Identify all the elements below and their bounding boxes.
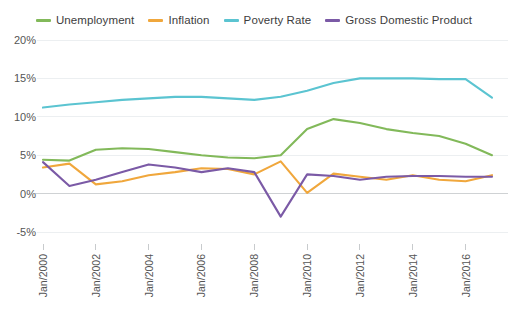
y-axis-tick-label: 0% xyxy=(20,188,36,200)
legend-swatch-icon xyxy=(36,19,51,22)
legend-item[interactable]: Unemployment xyxy=(36,14,135,26)
series-line xyxy=(43,78,492,107)
series-line xyxy=(43,161,492,192)
series-line xyxy=(43,162,492,217)
legend-item-label: Poverty Rate xyxy=(244,14,312,26)
legend-item[interactable]: Poverty Rate xyxy=(224,14,312,26)
chart-legend: UnemploymentInflationPoverty RateGross D… xyxy=(0,11,508,29)
x-axis-tick-label: Jan/2010 xyxy=(301,254,313,297)
legend-item[interactable]: Inflation xyxy=(148,14,209,26)
x-axis-tick-label: Jan/2012 xyxy=(354,254,366,297)
x-axis-tick-label: Jan/2004 xyxy=(143,254,155,297)
legend-swatch-icon xyxy=(148,19,163,22)
series-line xyxy=(43,119,492,160)
y-axis-tick-label: 15% xyxy=(14,72,36,84)
series-group xyxy=(43,78,492,216)
y-axis-tick-label: -5% xyxy=(16,226,36,238)
x-axis-tick-label: Jan/2000 xyxy=(37,254,49,297)
legend-swatch-icon xyxy=(224,19,239,22)
y-axis-tick-label: 20% xyxy=(14,34,36,46)
x-axis-tick-label: Jan/2014 xyxy=(407,254,419,297)
y-axis-tick-label: 10% xyxy=(14,111,36,123)
x-axis-tick-label: Jan/2006 xyxy=(195,254,207,297)
legend-swatch-icon xyxy=(325,19,340,22)
x-axis-tick-label: Jan/2002 xyxy=(90,254,102,297)
legend-item-label: Gross Domestic Product xyxy=(345,14,472,26)
plot-svg: -5%0%5%10%15%20%Jan/2000Jan/2002Jan/2004… xyxy=(0,30,508,312)
legend-item-label: Inflation xyxy=(168,14,209,26)
x-axis-tick-label: Jan/2008 xyxy=(248,254,260,297)
legend-item[interactable]: Gross Domestic Product xyxy=(325,14,472,26)
plot-area: -5%0%5%10%15%20%Jan/2000Jan/2002Jan/2004… xyxy=(0,30,508,312)
y-axis-tick-label: 5% xyxy=(20,149,36,161)
x-axis-labels: Jan/2000Jan/2002Jan/2004Jan/2006Jan/2008… xyxy=(37,244,472,297)
legend-item-label: Unemployment xyxy=(56,14,135,26)
line-chart: UnemploymentInflationPoverty RateGross D… xyxy=(0,0,508,312)
y-axis-labels: -5%0%5%10%15%20% xyxy=(14,34,36,238)
x-axis-tick-label: Jan/2016 xyxy=(460,254,472,297)
